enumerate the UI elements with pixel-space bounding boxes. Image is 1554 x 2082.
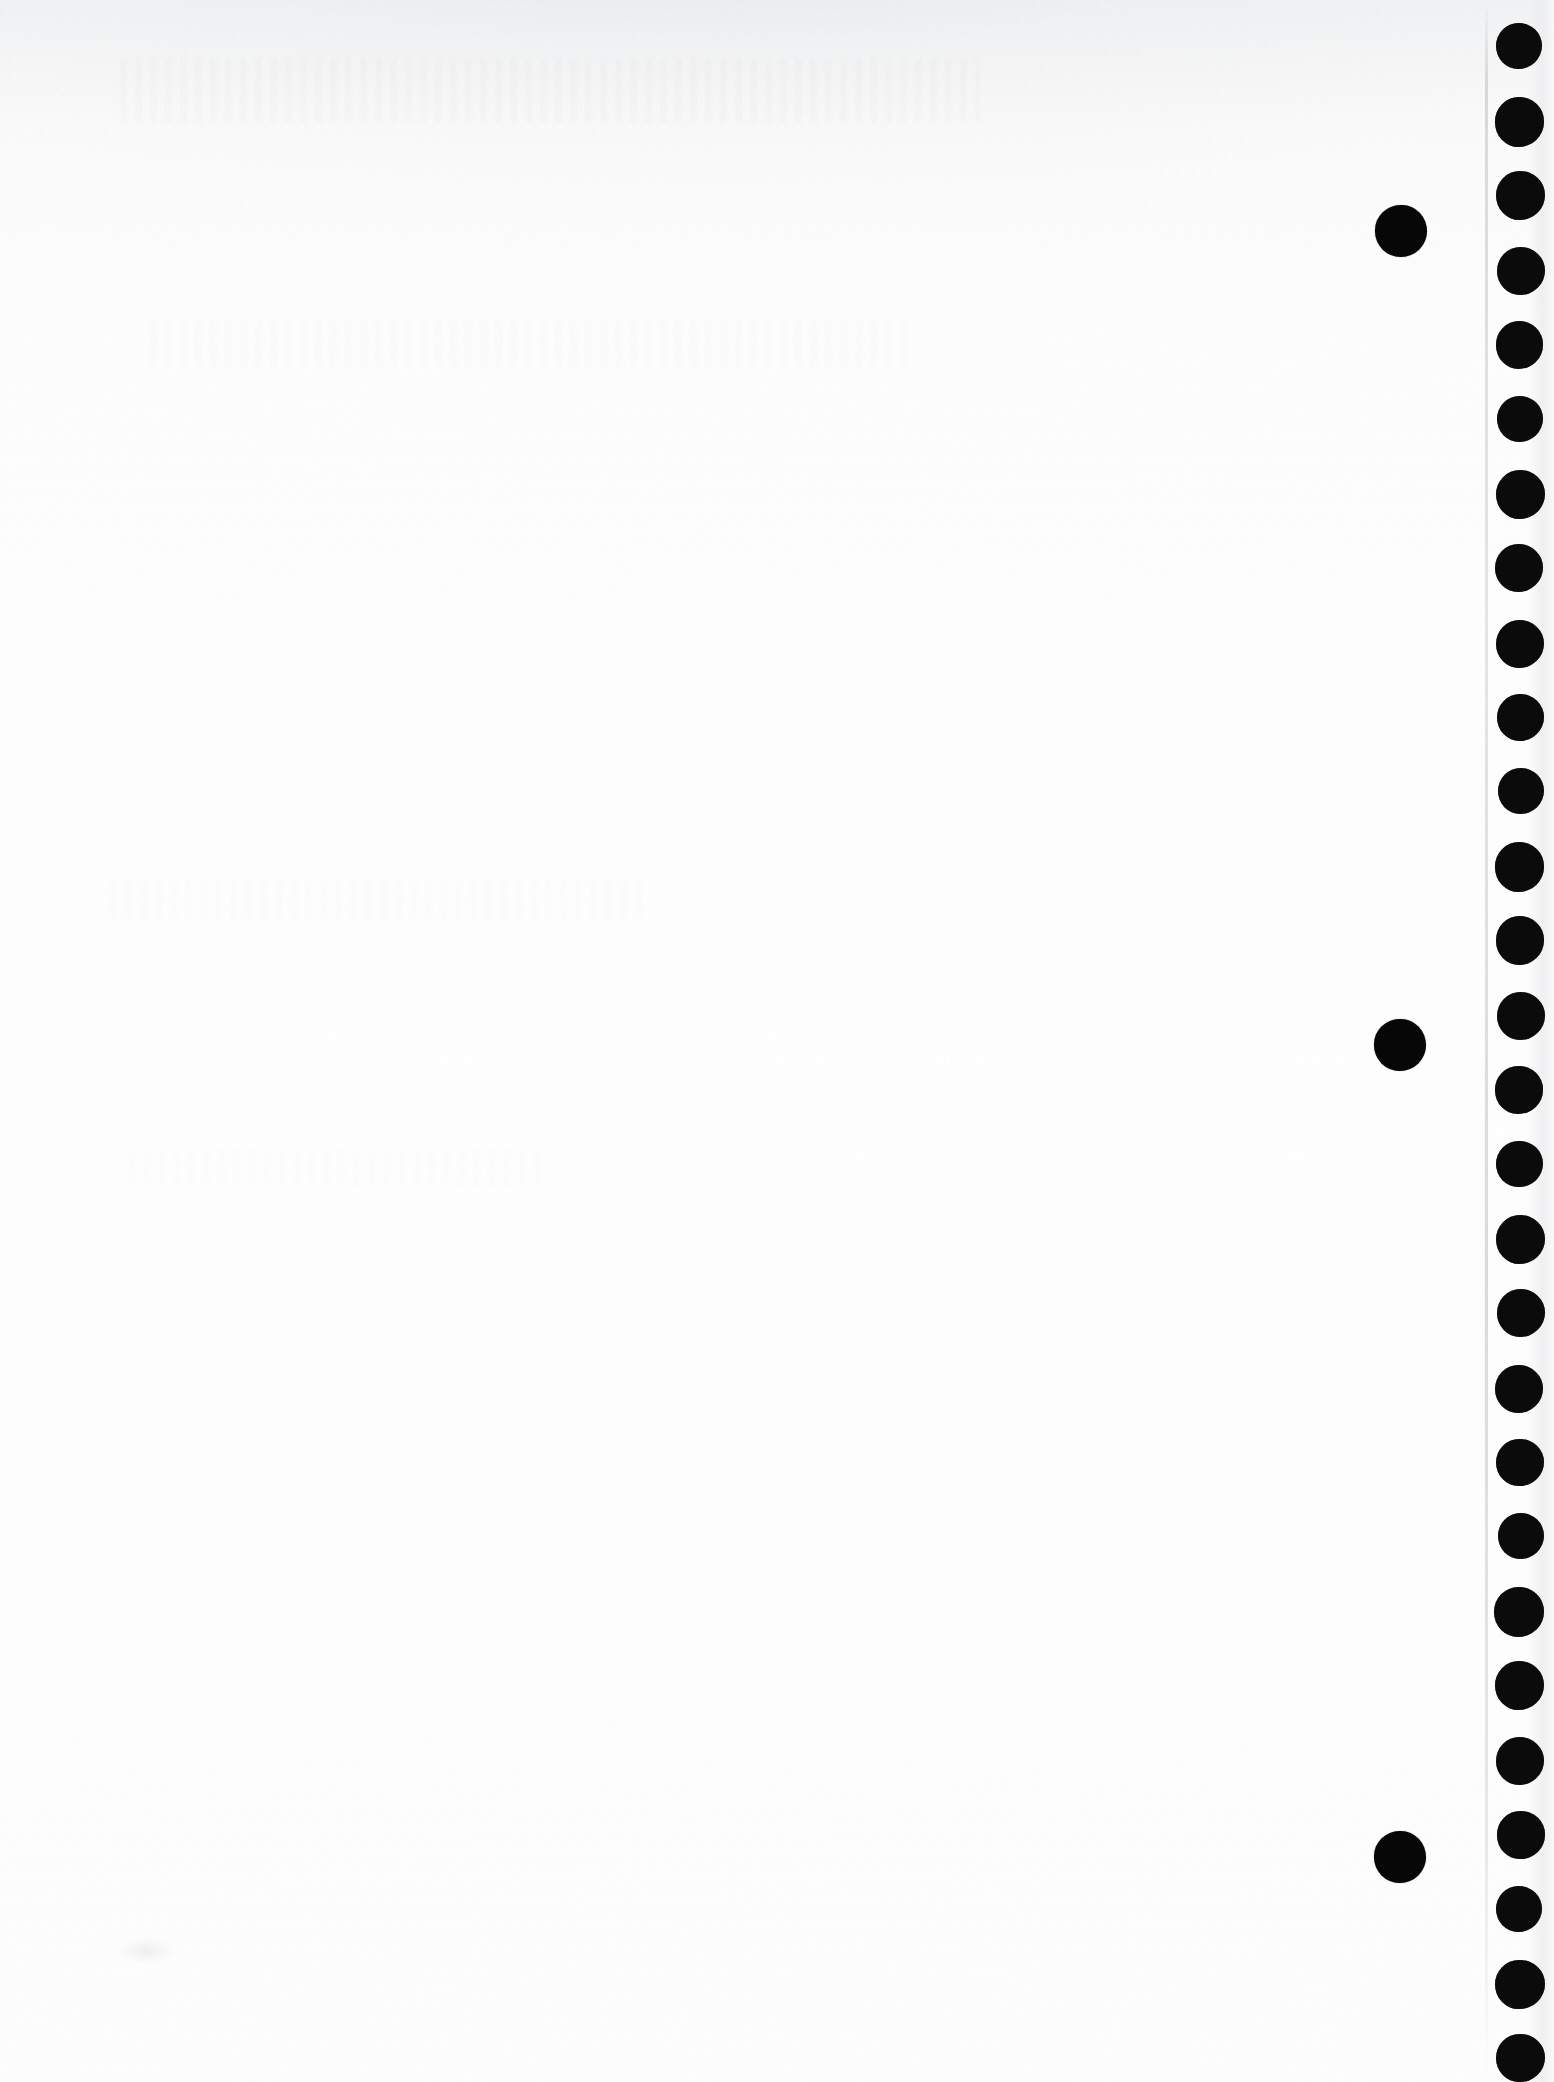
scanned-page — [0, 0, 1554, 2082]
paper-background — [0, 0, 1554, 2082]
